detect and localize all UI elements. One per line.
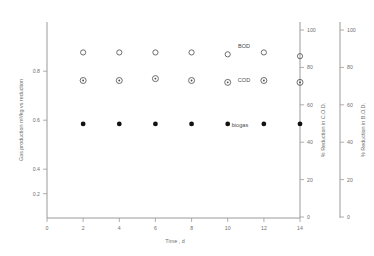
x-tick-label-10: 10: [225, 225, 231, 231]
cod-tick-label-20: 20: [307, 177, 313, 183]
cod-tick-label-40: 40: [307, 139, 313, 145]
data-point-bod: [189, 50, 194, 55]
data-point-biogas: [153, 122, 158, 127]
data-point-biogas: [189, 122, 194, 127]
x-axis-ticks: [47, 218, 300, 222]
left-tick-label-0-2: 0.2: [33, 191, 40, 197]
bod-axis: 100 80 60 40 20 0 % Reduction in B.O.D.: [340, 22, 366, 220]
data-point-cod-center: [82, 80, 84, 82]
bod-tick-label-20: 20: [347, 177, 353, 183]
cod-tick-label-100: 100: [307, 27, 316, 33]
series-bod-points: [81, 50, 303, 59]
data-point-cod-center: [227, 81, 229, 83]
data-point-bod: [117, 50, 122, 55]
data-point-cod-center: [191, 80, 193, 82]
series-biogas-points: [81, 122, 303, 127]
data-point-biogas: [81, 122, 86, 127]
data-point-biogas: [225, 122, 230, 127]
left-axis-title: Gas production m³/kg vs reduction: [18, 79, 24, 161]
chart-canvas: 0.8 0.6 0.4 0.2 Gas production m³/kg vs …: [0, 0, 374, 256]
bod-tick-label-60: 60: [347, 102, 353, 108]
cod-axis-title: % Reduction in C.O.D.: [320, 103, 326, 157]
x-tick-label-14: 14: [297, 225, 303, 231]
x-axis: 0 2 4 6 8 10 12 14 Time , d: [46, 218, 303, 244]
x-tick-label-6: 6: [154, 225, 157, 231]
series-cod-points: [80, 76, 303, 86]
bod-axis-ticks: [340, 30, 344, 217]
bod-tick-label-0: 0: [347, 214, 350, 220]
left-tick-label-0-8: 0.8: [33, 68, 40, 74]
data-point-bod: [225, 52, 230, 57]
x-tick-label-12: 12: [261, 225, 267, 231]
cod-tick-label-0: 0: [307, 214, 310, 220]
data-point-biogas: [261, 122, 266, 127]
x-tick-label-2: 2: [82, 225, 85, 231]
series-label-biogas: biogas: [232, 122, 249, 128]
x-tick-label-0: 0: [46, 225, 49, 231]
left-axis-ticks: [43, 71, 47, 194]
cod-tick-label-80: 80: [307, 64, 313, 70]
series-label-bod: BOD: [238, 43, 250, 49]
data-point-cod-center: [263, 80, 265, 82]
cod-tick-label-60: 60: [307, 102, 313, 108]
left-axis: 0.8 0.6 0.4 0.2 Gas production m³/kg vs …: [18, 22, 47, 218]
data-point-bod: [261, 50, 266, 55]
x-tick-label-8: 8: [190, 225, 193, 231]
cod-axis: 100 80 60 40 20 0 % Reduction in C.O.D.: [300, 22, 326, 220]
bod-axis-title: % Reduction in B.O.D.: [360, 103, 366, 157]
data-point-biogas: [298, 122, 303, 127]
data-point-bod: [81, 50, 86, 55]
data-point-cod-center: [155, 78, 157, 80]
scatter-chart: 0.8 0.6 0.4 0.2 Gas production m³/kg vs …: [0, 0, 374, 256]
left-tick-label-0-6: 0.6: [33, 117, 40, 123]
bod-tick-label-100: 100: [347, 27, 356, 33]
data-point-cod-center: [299, 81, 301, 83]
x-axis-title: Time , d: [165, 238, 184, 244]
bod-tick-label-80: 80: [347, 64, 353, 70]
data-point-biogas: [117, 122, 122, 127]
data-point-bod: [153, 50, 158, 55]
bod-tick-label-40: 40: [347, 139, 353, 145]
series-label-cod: COD: [238, 77, 250, 83]
left-tick-label-0-4: 0.4: [33, 166, 40, 172]
x-tick-label-4: 4: [118, 225, 121, 231]
data-point-cod-center: [118, 80, 120, 82]
